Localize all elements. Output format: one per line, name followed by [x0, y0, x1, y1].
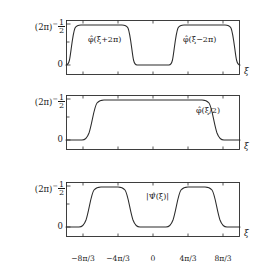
xtick-label-2: −4π/3 — [106, 254, 130, 263]
label-phi-minus-2pi: φ̂(ξ−2π) — [183, 35, 216, 44]
xi-label-top-panel: ξ — [244, 66, 249, 76]
ylabel-fraction: 12 — [58, 19, 65, 35]
ylabel-base: (2π) — [35, 22, 53, 32]
ylabel-bottom-panel: (2π)−12 — [35, 181, 65, 197]
ylabel-numerator: 1 — [58, 94, 65, 101]
ylabel-zero-top-panel: 0 — [58, 60, 63, 69]
ylabel-zero-bottom-panel: 0 — [58, 222, 63, 231]
label-phi-plus-2pi: φ̂(ξ+2π) — [88, 35, 121, 44]
panel-bottom-frame — [67, 183, 240, 237]
xi-label-middle-panel: ξ — [244, 141, 249, 151]
ylabel-denominator: 2 — [58, 101, 65, 110]
label-psi-magnitude: |Ψ̂(ξ)| — [146, 192, 169, 201]
ylabel-fraction: 12 — [58, 181, 65, 197]
ylabel-numerator: 1 — [58, 19, 65, 26]
label-phi-half: φ̂(ξ/2) — [196, 106, 220, 115]
panel-top-phi-shifted — [66, 20, 240, 75]
xtick-label-3: 0 — [151, 254, 156, 263]
ylabel-denominator: 2 — [58, 188, 65, 197]
panel-bottom-psi-magnitude — [66, 182, 240, 237]
xi-label-bottom-panel: ξ — [244, 228, 249, 238]
ylabel-zero-middle-panel: 0 — [58, 135, 63, 144]
panel-middle-frame — [67, 96, 240, 150]
ylabel-base: (2π) — [35, 97, 53, 107]
ylabel-fraction: 12 — [58, 94, 65, 110]
panel-middle-phi-dilated — [66, 95, 240, 150]
meyer-wavelet-figure: (2π)−12 0 φ̂(ξ+2π) φ̂(ξ−2π) ξ (2π)−12 0 … — [0, 0, 266, 280]
panel-top-plot — [66, 20, 240, 75]
curve-phi-shifted — [66, 25, 240, 65]
ylabel-top-panel: (2π)−12 — [35, 19, 65, 35]
ylabel-denominator: 2 — [58, 26, 65, 35]
ylabel-middle-panel: (2π)−12 — [35, 94, 65, 110]
panel-middle-plot — [66, 95, 240, 150]
xtick-label-1: −8π/3 — [71, 254, 95, 263]
panel-top-frame — [67, 21, 240, 75]
panel-bottom-plot — [66, 182, 240, 237]
ylabel-numerator: 1 — [58, 181, 65, 188]
ylabel-base: (2π) — [35, 184, 53, 194]
xtick-label-5: 8π/3 — [214, 254, 231, 263]
xtick-label-4: 4π/3 — [179, 254, 196, 263]
